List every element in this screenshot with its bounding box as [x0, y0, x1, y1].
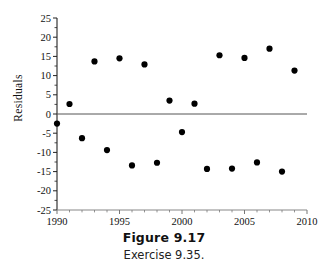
data-point: [216, 52, 222, 58]
x-tick-label: 1995: [109, 216, 130, 227]
y-tick-label: 10: [41, 70, 52, 81]
x-tick-label: 2005: [234, 216, 255, 227]
data-point: [141, 61, 147, 67]
data-point: [154, 160, 160, 166]
data-point: [204, 166, 210, 172]
y-tick-label: -20: [37, 185, 51, 196]
y-tick-label: -15: [37, 166, 51, 177]
data-point: [279, 169, 285, 175]
data-point: [254, 159, 260, 165]
data-point: [229, 165, 235, 171]
data-point: [291, 68, 297, 74]
figure-caption-title: Figure 9.17: [0, 230, 328, 246]
data-point: [116, 55, 122, 61]
y-axis-title: Residuals: [12, 53, 24, 143]
scatter-plot: 2520151050-5-10-15-20-251990199520002005…: [0, 0, 328, 228]
data-point: [54, 121, 60, 127]
plot-svg: 2520151050-5-10-15-20-251990199520002005…: [0, 0, 328, 228]
figure-caption-subtitle: Exercise 9.35.: [0, 247, 328, 263]
data-point: [179, 129, 185, 135]
x-tick-label: 1990: [47, 216, 68, 227]
data-point: [91, 58, 97, 64]
data-point: [104, 147, 110, 153]
y-tick-label: 25: [41, 13, 52, 24]
data-point: [79, 135, 85, 141]
y-tick-label: 0: [46, 109, 51, 120]
data-point: [266, 46, 272, 52]
x-tick-label: 2000: [172, 216, 193, 227]
data-point: [241, 55, 247, 61]
y-tick-label: 15: [41, 51, 52, 62]
figure-container: 2520151050-5-10-15-20-251990199520002005…: [0, 0, 328, 271]
data-point: [129, 162, 135, 168]
x-tick-label: 2010: [297, 216, 318, 227]
y-tick-label: -10: [37, 147, 51, 158]
y-tick-label: 20: [41, 32, 52, 43]
y-tick-label: -25: [37, 205, 51, 216]
data-point: [166, 97, 172, 103]
y-tick-label: -5: [42, 128, 51, 139]
data-point: [191, 101, 197, 107]
data-point: [66, 101, 72, 107]
figure-caption: Figure 9.17 Exercise 9.35.: [0, 230, 328, 263]
y-tick-label: 5: [46, 89, 51, 100]
